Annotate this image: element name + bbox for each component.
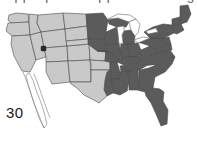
state-arizona [46, 61, 70, 84]
us-choropleth-figure: appropriate approach design [0, 0, 197, 143]
state-maine [180, 5, 191, 24]
state-montana [37, 13, 65, 32]
state-utah [44, 46, 68, 62]
value-label: 30 [6, 105, 24, 120]
state-florida [145, 88, 168, 126]
state-minnesota [86, 13, 108, 40]
mexico-inland-path [34, 74, 50, 118]
state-arkansas [110, 62, 120, 79]
state-south-dakota [65, 26, 88, 41]
state-new-england-south [172, 24, 184, 34]
mexico-coast-path [23, 72, 44, 128]
state-alabama [128, 70, 139, 90]
state-wyoming [41, 29, 67, 48]
baja-california-outline [23, 72, 50, 128]
state-oregon [6, 22, 30, 36]
state-washington [8, 13, 29, 23]
nevada-utah-marker-icon [41, 46, 46, 51]
state-colorado [67, 44, 90, 61]
us-map-svg [0, 0, 197, 143]
state-new-mexico [68, 60, 91, 82]
state-indiana [120, 44, 129, 58]
